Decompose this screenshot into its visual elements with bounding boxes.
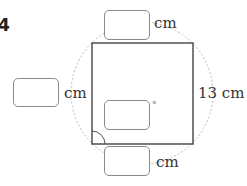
side-length-label: 13 cm bbox=[198, 86, 244, 101]
bottom-unit-label: cm bbox=[156, 155, 179, 170]
center-answer-box[interactable] bbox=[104, 100, 150, 130]
left-answer-box[interactable] bbox=[13, 78, 59, 107]
right-angle-arc bbox=[92, 131, 105, 144]
left-unit-label: cm bbox=[64, 86, 87, 101]
bottom-answer-box[interactable] bbox=[104, 146, 150, 176]
top-unit-label: cm bbox=[154, 16, 177, 31]
degree-label: ° bbox=[152, 101, 157, 110]
top-answer-box[interactable] bbox=[104, 10, 150, 40]
